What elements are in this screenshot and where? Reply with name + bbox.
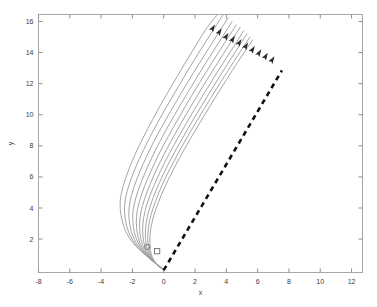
x-axis-title: x — [199, 289, 203, 296]
y-axis-title: y — [7, 141, 15, 145]
trajectory-arrowhead — [249, 45, 257, 54]
x-tick-label: -2 — [129, 278, 135, 285]
reference-dashed-line — [164, 70, 282, 270]
plot-frame — [39, 15, 363, 273]
x-tick-label: 2 — [193, 278, 197, 285]
x-tick-label: 4 — [224, 278, 228, 285]
trajectory-arrowhead — [229, 34, 237, 43]
y-tick-label: 4 — [30, 205, 34, 212]
trajectory-10 — [150, 40, 253, 271]
trajectory-arrowhead — [255, 48, 263, 57]
x-tick-label: 10 — [316, 278, 324, 285]
x-tick-label: 8 — [287, 278, 291, 285]
x-tick-label: -4 — [98, 278, 104, 285]
trajectory-7 — [143, 31, 244, 271]
y-tick-label: 10 — [26, 111, 34, 118]
y-tick-label: 2 — [30, 236, 34, 243]
data-layer — [120, 15, 282, 271]
trajectory-arrowhead — [216, 27, 224, 36]
trajectory-6 — [140, 27, 241, 270]
trajectory-9 — [148, 37, 250, 270]
chart-figure: -8-6-4-2024681012246810121416xy — [0, 0, 377, 307]
x-tick-label: -8 — [35, 278, 41, 285]
y-tick-label: 12 — [26, 80, 34, 87]
trajectory-3 — [129, 18, 228, 271]
y-tick-label: 14 — [26, 49, 34, 56]
x-tick-label: -6 — [67, 278, 73, 285]
square-marker — [155, 249, 160, 254]
x-tick-label: 0 — [162, 278, 166, 285]
trajectory-2 — [124, 15, 223, 271]
y-tick-label: 6 — [30, 173, 34, 180]
trajectory-8 — [145, 34, 247, 271]
x-tick-label: 6 — [256, 278, 260, 285]
x-tick-label: 12 — [348, 278, 356, 285]
chart-canvas: -8-6-4-2024681012246810121416xy — [0, 0, 377, 307]
trajectory-arrowhead — [262, 51, 270, 60]
trajectory-arrowhead — [209, 23, 217, 32]
trajectory-arrowhead — [268, 55, 276, 64]
y-tick-label: 8 — [30, 142, 34, 149]
y-tick-label: 16 — [26, 18, 34, 25]
